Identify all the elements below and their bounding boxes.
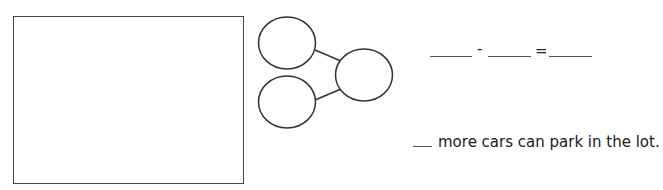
bond-part-circle-top[interactable] [259,17,316,69]
number-bond-diagram [250,10,410,140]
answer-blank[interactable] [413,146,432,147]
equals-sign: = [535,44,548,59]
drawing-box[interactable] [13,16,244,184]
bond-part-circle-bottom[interactable] [259,76,316,128]
equation-blank-result[interactable] [549,56,592,57]
answer-text: more cars can park in the lot. [438,133,660,151]
bond-connector-top [315,50,341,61]
bond-connector-bottom [315,89,341,100]
equation-blank-2[interactable] [488,56,531,57]
equation-blank-1[interactable] [430,56,472,57]
answer-sentence: more cars can park in the lot. [413,133,660,151]
minus-sign: - [477,42,482,57]
bond-whole-circle[interactable] [336,49,393,101]
